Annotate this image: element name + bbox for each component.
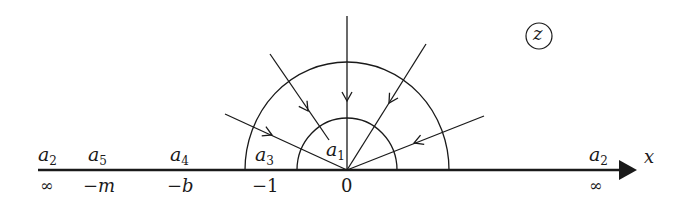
tick-minus-b: −b xyxy=(167,177,194,195)
tick-infinity-right: ∞ xyxy=(589,178,602,194)
tick-zero: 0 xyxy=(341,177,352,195)
x-axis-arrowhead-icon xyxy=(619,160,637,180)
tick-minus-one: −1 xyxy=(252,177,279,195)
label-a1: a1 xyxy=(326,140,345,162)
label-a2-right: a2 xyxy=(589,145,608,167)
label-a2-left: a2 xyxy=(38,145,57,167)
ray-upper-left xyxy=(270,54,329,140)
label-a3: a3 xyxy=(255,145,274,167)
label-a4: a4 xyxy=(170,145,189,167)
tick-infinity-left: ∞ xyxy=(40,178,53,194)
axis-label: x xyxy=(644,148,654,166)
tick-minus-m: −m xyxy=(83,177,115,195)
conformal-map-diagram: z x a2 a5 a4 a3 a1 a2 ∞ −m −b −1 0 ∞ xyxy=(0,0,686,206)
plane-label: z xyxy=(533,25,542,43)
label-a5: a5 xyxy=(88,145,107,167)
